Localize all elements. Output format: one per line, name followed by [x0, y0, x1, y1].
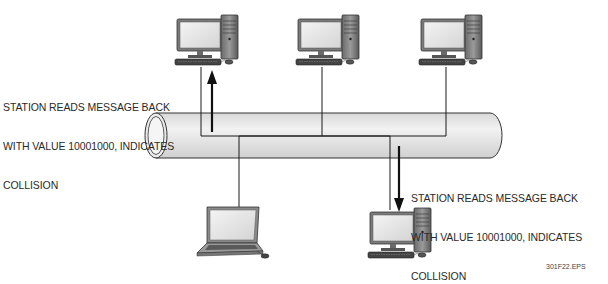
annotation-line: COLLISION: [411, 270, 582, 283]
annotation-line: WITH VALUE 10001000, INDICATES: [411, 231, 582, 244]
annotation-line: STATION READS MESSAGE BACK: [3, 101, 174, 114]
top-center-computer: [296, 15, 359, 65]
annotation-line: STATION READS MESSAGE BACK: [411, 192, 582, 205]
top-left-computer: [175, 15, 238, 65]
figure-id: 301F22.EPS: [546, 263, 586, 270]
bottom-left-laptop: [197, 207, 269, 258]
annotation-line: WITH VALUE 10001000, INDICATES: [3, 140, 174, 153]
top-right-computer: [419, 15, 482, 65]
annotation-line: COLLISION: [3, 179, 174, 192]
annotation-top-left: STATION READS MESSAGE BACK WITH VALUE 10…: [3, 75, 174, 205]
